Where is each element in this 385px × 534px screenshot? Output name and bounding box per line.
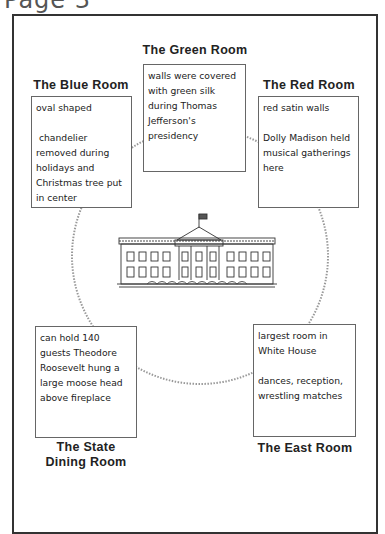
state-dining-room-title-line2: Dining Room	[30, 455, 142, 470]
blue-room-fact: chandelier removed during holidays and C…	[36, 130, 127, 205]
state-dining-room-fact: can hold 140 guests Theodore Roosevelt h…	[40, 330, 132, 405]
east-room-fact: dances, reception, wrestling matches	[258, 373, 351, 403]
east-room-title: The East Room	[245, 441, 365, 456]
east-room-box: largest room in White House dances, rece…	[253, 324, 356, 437]
green-room-title: The Green Room	[130, 43, 260, 58]
green-room-box: walls were covered with green silk durin…	[143, 64, 246, 172]
green-room-fact: walls were covered with green silk durin…	[148, 68, 241, 143]
state-dining-room-title-line1: The State	[30, 440, 142, 455]
red-room-fact: red satin walls	[263, 100, 354, 115]
red-room-box: red satin walls Dolly Madison held music…	[258, 96, 359, 208]
state-dining-room-title: The State Dining Room	[30, 440, 142, 470]
east-room-fact: largest room in White House	[258, 328, 351, 358]
white-house-icon	[117, 210, 277, 290]
blue-room-box: oval shaped chandelier removed during ho…	[31, 96, 132, 208]
blue-room-fact: oval shaped	[36, 100, 127, 115]
red-room-title: The Red Room	[250, 78, 368, 93]
state-dining-room-box: can hold 140 guests Theodore Roosevelt h…	[35, 326, 137, 438]
red-room-fact: Dolly Madison held musical gatherings he…	[263, 130, 354, 175]
blue-room-title: The Blue Room	[22, 78, 140, 93]
